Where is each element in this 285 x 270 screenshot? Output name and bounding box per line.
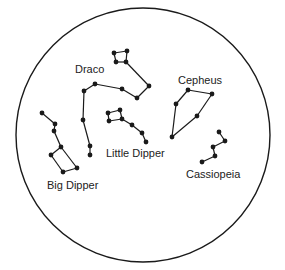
draco-star (125, 49, 130, 54)
cassiopeia-star (211, 145, 216, 150)
label-cassiopeia: Cassiopeia (186, 168, 241, 180)
constellation-cepheus (170, 88, 215, 140)
big-dipper-star (52, 129, 57, 134)
big-dipper-line (61, 147, 77, 168)
big-dipper-star (53, 122, 58, 127)
constellation-cassiopeia (200, 130, 228, 165)
little-dipper-star (106, 111, 111, 116)
constellation-little-dipper (106, 108, 149, 145)
cepheus-star (170, 135, 175, 140)
draco-star (93, 82, 98, 87)
cassiopeia-star (223, 139, 228, 144)
little-dipper-star (107, 119, 112, 124)
big-dipper-star (75, 166, 80, 171)
big-dipper-star (59, 145, 64, 150)
draco-star (147, 84, 152, 89)
draco-star (82, 89, 87, 94)
little-dipper-star (140, 131, 145, 136)
big-dipper-line (51, 155, 63, 172)
cassiopeia-star (213, 154, 218, 159)
draco-star (112, 51, 117, 56)
little-dipper-star (118, 108, 123, 113)
label-cepheus: Cepheus (178, 74, 223, 86)
draco-star (88, 153, 93, 158)
draco-star (88, 144, 93, 149)
big-dipper-star (40, 111, 45, 116)
cepheus-line (172, 104, 176, 137)
draco-line (122, 89, 137, 98)
cassiopeia-star (217, 130, 222, 135)
sky-chart: Draco Cepheus Little Dipper Big Dipper C… (0, 0, 285, 270)
big-dipper-line (42, 113, 55, 124)
big-dipper-star (61, 170, 66, 175)
cepheus-star (174, 102, 179, 107)
label-little-dipper: Little Dipper (106, 147, 165, 159)
draco-line (95, 84, 122, 89)
label-draco: Draco (75, 63, 104, 75)
draco-line (83, 120, 90, 146)
draco-star (124, 60, 129, 65)
big-dipper-star (49, 153, 54, 158)
label-big-dipper: Big Dipper (47, 179, 99, 191)
constellation-big-dipper (40, 111, 80, 175)
cepheus-star (186, 88, 191, 93)
cepheus-line (197, 94, 212, 116)
little-dipper-star (144, 140, 149, 145)
draco-line (126, 62, 149, 86)
cepheus-star (210, 92, 215, 97)
cepheus-line (176, 90, 188, 104)
little-dipper-star (130, 123, 135, 128)
little-dipper-star (120, 117, 125, 122)
draco-star (135, 96, 140, 101)
big-dipper-line (54, 131, 61, 147)
draco-line (83, 91, 84, 120)
cepheus-star (195, 114, 200, 119)
cepheus-line (172, 116, 197, 137)
draco-star (114, 60, 119, 65)
cepheus-line (188, 90, 212, 94)
cassiopeia-star (200, 160, 205, 165)
draco-star (120, 87, 125, 92)
draco-line (137, 86, 149, 98)
draco-star (81, 118, 86, 123)
